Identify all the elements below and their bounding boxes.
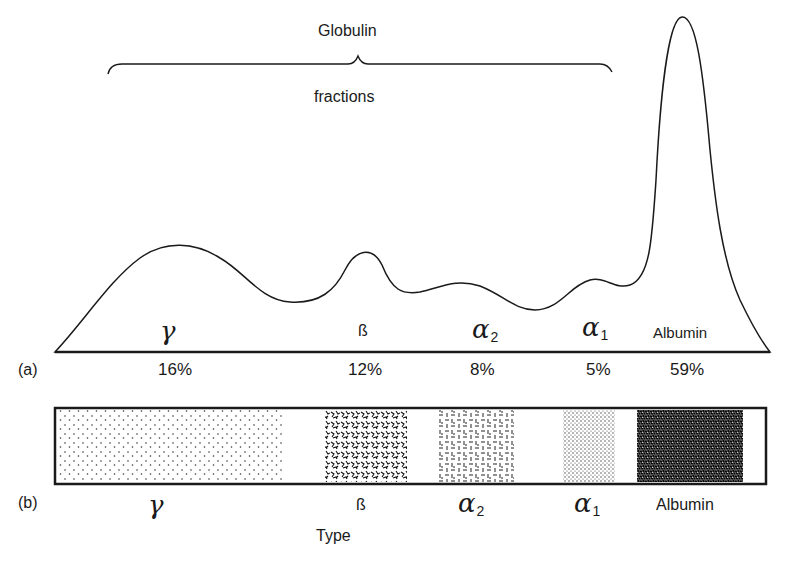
- axis-caption: Type: [316, 527, 351, 545]
- percent-albumin: 59%: [670, 360, 704, 380]
- densitometry-curve: [55, 17, 770, 352]
- label-beta-b: ß: [356, 496, 366, 514]
- label-gamma-b: γ: [148, 490, 164, 520]
- percent-gamma: 16%: [158, 360, 192, 380]
- band-gamma: [57, 410, 283, 482]
- percent-alpha1: 5%: [586, 360, 611, 380]
- label-alpha2-a: α2: [472, 314, 498, 345]
- band-beta: [325, 410, 407, 482]
- fractions-label: fractions: [314, 88, 374, 106]
- panel-a-label: (a): [18, 361, 38, 379]
- label-alpha1-b: α1: [574, 488, 600, 519]
- label-alpha2-b: α2: [458, 488, 484, 519]
- band-alpha1: [563, 410, 615, 482]
- band-albumin: [637, 410, 743, 482]
- percent-beta: 12%: [348, 360, 382, 380]
- percent-alpha2: 8%: [470, 360, 495, 380]
- band-alpha2: [438, 410, 514, 482]
- label-gamma-a: γ: [160, 316, 176, 346]
- electrophoresis-diagram: [0, 0, 786, 563]
- panel-b-label: (b): [18, 494, 38, 512]
- label-albumin-a: Albumin: [653, 324, 707, 341]
- globulin-label: Globulin: [318, 22, 377, 40]
- label-albumin-b: Albumin: [656, 496, 714, 514]
- label-alpha1-a: α1: [582, 312, 608, 343]
- globulin-brace: [108, 56, 612, 74]
- label-beta-a: ß: [358, 322, 368, 340]
